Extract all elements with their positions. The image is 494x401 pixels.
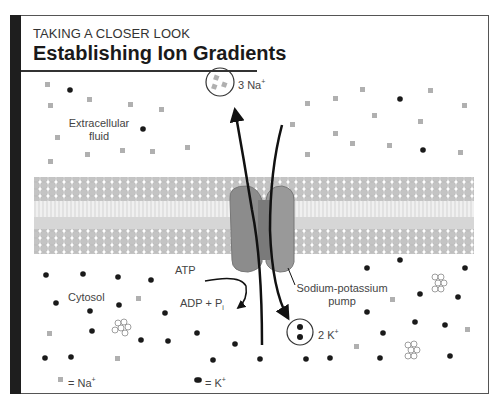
sodium-potassium-pump-icon <box>230 186 294 272</box>
legend-na-label: = Na+ <box>68 373 96 390</box>
atp-label: ATP <box>175 264 196 277</box>
molecule-cluster-icon <box>112 274 447 359</box>
k-in-label: 2 K+ <box>318 325 339 342</box>
na-out-label: 3 Na+ <box>238 75 265 92</box>
legend-k-label: = K+ <box>205 373 226 390</box>
ion-gradient-diagram <box>0 0 494 401</box>
legend-k-icon <box>194 377 200 383</box>
na-group-outside <box>206 68 234 96</box>
k-group-inside <box>287 319 313 345</box>
cytosol-label: Cytosol <box>68 291 105 304</box>
extracellular-label: Extracellular fluid <box>64 117 134 143</box>
adp-label: ADP + Pi <box>180 297 224 314</box>
pump-label: Sodium-potassium pump <box>292 282 392 308</box>
legend-na-icon <box>58 377 63 382</box>
